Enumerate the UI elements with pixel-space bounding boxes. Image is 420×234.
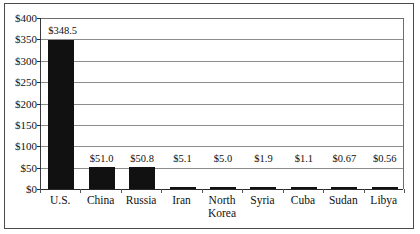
- bar-value-label: $51.0: [90, 154, 114, 165]
- y-axis-tick-mark: [37, 39, 41, 40]
- y-axis-tick-label: $400: [6, 13, 40, 24]
- y-axis-tick-mark: [37, 168, 41, 169]
- bar-value-label: $348.5: [48, 26, 77, 37]
- x-axis-category-label: Russia: [126, 194, 157, 207]
- y-axis-tick-mark: [37, 125, 41, 126]
- bar-value-label: $1.1: [295, 154, 313, 165]
- bar-value-label: $50.8: [130, 154, 154, 165]
- y-axis-tick-label: $350: [6, 34, 40, 45]
- bar: [48, 40, 74, 189]
- x-axis-tick-mark: [161, 189, 162, 193]
- y-axis-tick-mark: [37, 61, 41, 62]
- bar: [89, 167, 115, 189]
- gridline: [41, 146, 403, 147]
- x-axis-category-label: China: [87, 194, 114, 207]
- y-axis-tick-mark: [37, 146, 41, 147]
- gridline: [41, 82, 403, 83]
- x-axis-tick-mark: [323, 189, 324, 193]
- y-axis-tick-label: $300: [6, 55, 40, 66]
- x-axis-labels: U.S.ChinaRussiaIranNorth KoreaSyriaCubaS…: [40, 194, 404, 228]
- x-axis-category-label: North Korea: [208, 194, 236, 220]
- y-axis-tick-mark: [37, 18, 41, 19]
- gridline: [41, 39, 403, 40]
- chart-frame: $0$50$100$150$200$250$300$350$400 $348.5…: [4, 3, 414, 229]
- bar-value-label: $1.9: [254, 154, 272, 165]
- y-axis-tick-mark: [37, 104, 41, 105]
- x-axis-tick-mark: [404, 189, 405, 193]
- y-axis-tick-label: $250: [6, 77, 40, 88]
- x-axis-category-label: Cuba: [291, 194, 315, 207]
- x-axis-tick-mark: [202, 189, 203, 193]
- y-axis-tick-label: $150: [6, 119, 40, 130]
- x-axis-tick-mark: [121, 189, 122, 193]
- y-axis-tick-mark: [37, 82, 41, 83]
- x-axis-category-label: Syria: [250, 194, 274, 207]
- x-axis-tick-mark: [283, 189, 284, 193]
- bar-value-label: $0.67: [333, 154, 357, 165]
- bar-value-label: $5.0: [214, 154, 232, 165]
- bar-value-label: $0.56: [373, 154, 397, 165]
- x-axis-category-label: Libya: [370, 194, 397, 207]
- y-axis-tick-label: $100: [6, 141, 40, 152]
- x-axis-ticks: [40, 189, 404, 193]
- y-axis-labels: $0$50$100$150$200$250$300$350$400: [5, 18, 40, 189]
- gridline: [41, 125, 403, 126]
- gridline: [41, 104, 403, 105]
- gridline: [41, 18, 403, 19]
- x-axis-category-label: Sudan: [329, 194, 358, 207]
- x-axis-category-label: Iran: [172, 194, 191, 207]
- bar-value-label: $5.1: [173, 154, 191, 165]
- y-axis-tick-label: $200: [6, 98, 40, 109]
- x-axis-tick-mark: [242, 189, 243, 193]
- y-axis-tick-label: $50: [6, 162, 40, 173]
- x-axis-tick-mark: [364, 189, 365, 193]
- y-axis-tick-label: $0: [6, 184, 40, 195]
- x-axis-tick-mark: [40, 189, 41, 193]
- x-axis-category-label: U.S.: [50, 194, 70, 207]
- plot-area: $348.5$51.0$50.8$5.1$5.0$1.9$1.1$0.67$0.…: [40, 18, 404, 189]
- x-axis-tick-mark: [80, 189, 81, 193]
- gridline: [41, 61, 403, 62]
- bar: [129, 167, 155, 189]
